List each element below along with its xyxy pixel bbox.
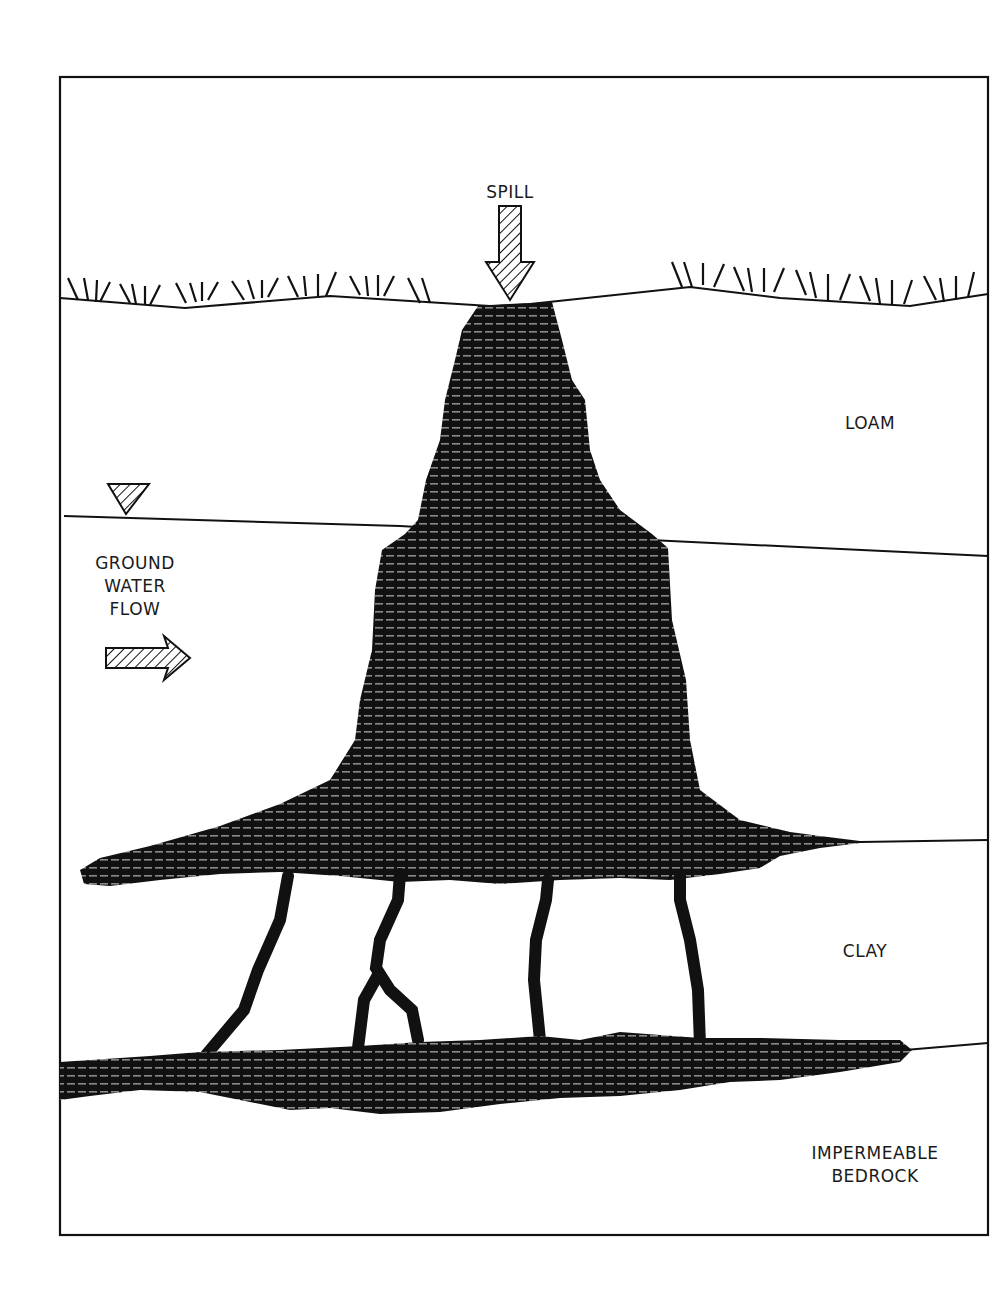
lower-contaminant-pool [60, 1032, 912, 1114]
ground-water-flow-line-1: GROUND [70, 552, 200, 575]
spill-arrow-icon [486, 206, 534, 300]
clay-label: CLAY [825, 940, 905, 963]
loam-label: LOAM [830, 412, 910, 435]
ground-water-flow-label: GROUND WATER FLOW [70, 552, 200, 621]
ground-water-flow-line-2: WATER [70, 575, 200, 598]
spill-label: SPILL [470, 181, 550, 204]
bedrock-label: IMPERMEABLE BEDROCK [780, 1142, 970, 1188]
water-table-triangle-icon [108, 484, 149, 514]
plume-fingers [206, 874, 700, 1055]
bedrock-label-line-1: IMPERMEABLE [780, 1142, 970, 1165]
ground-water-flow-line-3: FLOW [70, 598, 200, 621]
groundwater-flow-arrow-icon [106, 636, 190, 680]
clay-top-line [860, 840, 988, 842]
bedrock-top-line [905, 1043, 988, 1050]
bedrock-label-line-2: BEDROCK [780, 1165, 970, 1188]
